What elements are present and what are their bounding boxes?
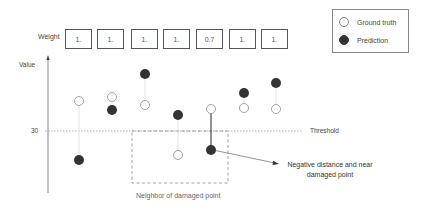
prediction-point (140, 69, 150, 79)
ground-truth-series (75, 93, 281, 160)
annotation-line-2: damaged point (282, 170, 378, 180)
annotation-line-1: Negative distance and near (282, 160, 378, 170)
plot-area (0, 0, 430, 212)
ground-truth-point (272, 105, 281, 114)
ground-truth-point (141, 101, 150, 110)
prediction-point (271, 78, 281, 88)
prediction-point (173, 110, 183, 120)
ground-truth-point (174, 151, 183, 160)
prediction-point (239, 88, 249, 98)
y-axis-arrow-icon (46, 55, 49, 60)
annotation-arrow (213, 150, 275, 163)
ground-truth-point (207, 105, 216, 114)
prediction-point (107, 105, 117, 115)
arrow-head-icon (273, 161, 279, 165)
y-axis-label: Value (19, 61, 35, 68)
ground-truth-point (75, 97, 84, 106)
threshold-tick-label: 30 (31, 127, 38, 134)
neighbor-caption: Neighbor of damaged point (136, 192, 220, 199)
ground-truth-point (108, 93, 117, 102)
prediction-point (74, 155, 84, 165)
ground-truth-point (240, 104, 249, 113)
annotation-text: Negative distance and near damaged point (282, 160, 378, 180)
prediction-point-damaged (206, 145, 216, 155)
threshold-label: Threshold (310, 127, 339, 134)
